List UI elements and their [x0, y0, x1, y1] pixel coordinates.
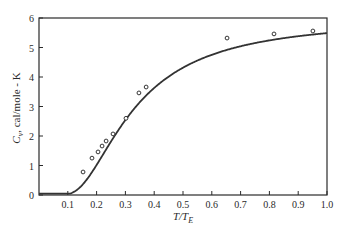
- y-tick-label: 2: [29, 131, 34, 142]
- y-axis-label-units: , cal/mole - K: [10, 72, 22, 133]
- x-axis-label-main: T/T: [173, 210, 189, 222]
- data-point-marker: [96, 150, 100, 154]
- y-tick-label: 4: [29, 72, 34, 83]
- data-point-marker: [104, 139, 108, 143]
- y-axis-label: Cv, cal/mole - K: [10, 72, 25, 143]
- x-axis-label-subscript: E: [187, 216, 193, 225]
- data-point-marker: [137, 91, 141, 95]
- y-tick-label: 0: [29, 190, 34, 201]
- data-point-marker: [311, 29, 315, 33]
- data-points: [81, 29, 315, 174]
- plot-frame: [39, 18, 327, 195]
- y-axis-ticks: 0123456: [29, 13, 43, 201]
- x-tick-label: 0.3: [119, 199, 132, 210]
- plot-border: [39, 18, 327, 195]
- x-tick-label: 0.7: [234, 199, 247, 210]
- x-tick-label: 0.6: [206, 199, 219, 210]
- y-tick-label: 3: [29, 102, 34, 113]
- x-tick-label: 0.4: [148, 199, 161, 210]
- data-point-marker: [124, 116, 128, 120]
- x-tick-label: 1.0: [321, 199, 334, 210]
- data-point-marker: [81, 170, 85, 174]
- x-axis-ticks: 0.10.20.30.40.50.60.70.80.91.0: [62, 191, 334, 210]
- heat-capacity-chart: 0.10.20.30.40.50.60.70.80.91.0 0123456 T…: [0, 0, 350, 236]
- chart-canvas: 0.10.20.30.40.50.60.70.80.91.0 0123456 T…: [0, 0, 350, 236]
- x-tick-label: 0.2: [90, 199, 103, 210]
- data-point-marker: [225, 36, 229, 40]
- data-point-marker: [144, 85, 148, 89]
- data-point-marker: [90, 156, 94, 160]
- x-tick-label: 0.8: [263, 199, 276, 210]
- y-tick-label: 1: [29, 161, 34, 172]
- data-point-marker: [111, 132, 115, 136]
- x-axis-label: T/TE: [173, 210, 193, 225]
- data-point-marker: [100, 144, 104, 148]
- x-tick-label: 0.9: [292, 199, 305, 210]
- y-tick-label: 5: [29, 43, 34, 54]
- x-tick-label: 0.5: [177, 199, 190, 210]
- data-point-marker: [272, 32, 276, 36]
- curve-path: [39, 33, 327, 193]
- y-tick-label: 6: [29, 13, 34, 24]
- einstein-curve: [39, 33, 327, 193]
- x-tick-label: 0.1: [62, 199, 75, 210]
